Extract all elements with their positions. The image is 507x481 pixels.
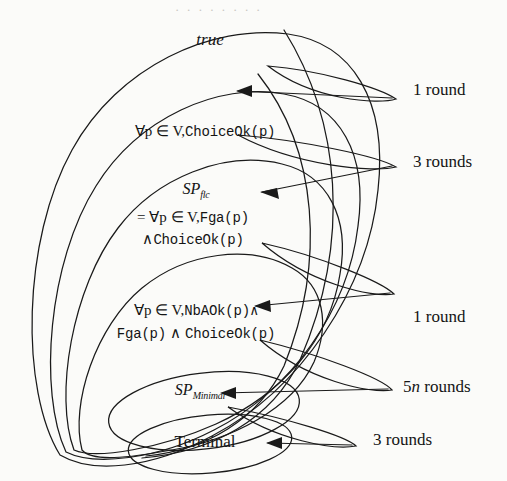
nested-set-diagram <box>0 0 507 481</box>
arrow-head-2 <box>260 188 279 199</box>
round-unit-3: round <box>422 307 466 326</box>
set-label-choiceok: ∀p ∈ V,ChoiceOk(p) <box>135 122 276 141</box>
conjunction-symbol-2: ∧ <box>166 325 185 341</box>
predicate-choiceok-2: ChoiceOk(p) <box>153 232 243 248</box>
set-subscript-minimal: Minimal <box>193 390 226 401</box>
predicate-choiceok-3: ChoiceOk(p) <box>185 326 275 342</box>
round-unit-5: rounds <box>382 430 433 449</box>
round-unit-1: round <box>422 80 466 99</box>
set-label-nbaok-line1: ∀p ∈ V,NbAOk(p)∧ <box>134 301 258 320</box>
round-unit-2: rounds <box>422 152 473 171</box>
arrow-head-5 <box>266 437 282 449</box>
quantifier-text-2: ∀p ∈ V, <box>134 302 184 318</box>
set-definition-spflc-line1: = ∀p ∈ V,Fga(p) <box>137 208 249 227</box>
set-label-spminimal: SPMinimal <box>175 381 225 401</box>
set-definition-spflc-line2: ∧ChoiceOk(p) <box>142 230 243 249</box>
predicate-choiceok: ChoiceOk(p) <box>185 124 275 140</box>
predicate-fga: Fga(p) <box>200 210 249 226</box>
set-label-nbaok-line2: Fga(p)∧ChoiceOk(p) <box>117 324 275 343</box>
round-label-1: 1 round <box>413 80 465 99</box>
predicate-nbaok: NbAOk(p)∧ <box>184 303 258 319</box>
definition-quantifier: = ∀p ∈ V, <box>137 209 200 225</box>
round-count-4: 5 <box>403 377 412 396</box>
arrow-line-2 <box>262 166 392 192</box>
set-label-true: true <box>196 30 223 49</box>
arrow-line-3 <box>256 293 390 306</box>
set-label-terminal: Terminal <box>174 432 235 451</box>
arrow-head-1 <box>236 85 252 97</box>
set-name-sp-2: SP <box>175 381 193 398</box>
pointer-lens-1 <box>268 66 396 101</box>
round-count-3: 1 <box>413 307 422 326</box>
arrow-line-4 <box>222 389 388 393</box>
round-count-1: 1 <box>413 80 422 99</box>
set-subscript-flc: flc <box>200 189 209 200</box>
round-count-5: 3 <box>373 430 382 449</box>
round-label-3: 1 round <box>413 307 465 326</box>
round-label-2: 3 rounds <box>413 152 472 171</box>
round-unit-4: rounds <box>420 377 471 396</box>
quantifier-text: ∀p ∈ V, <box>135 123 185 139</box>
round-count-4-variable: n <box>412 377 421 396</box>
round-label-5: 3 rounds <box>373 430 432 449</box>
round-label-4: 5n rounds <box>403 377 471 396</box>
set-name-sp: SP <box>182 180 200 197</box>
set-label-spflc: SPflc <box>182 180 209 200</box>
round-count-2: 3 <box>413 152 422 171</box>
conjunction-symbol: ∧ <box>142 231 153 247</box>
predicate-fga-2: Fga(p) <box>117 326 166 342</box>
